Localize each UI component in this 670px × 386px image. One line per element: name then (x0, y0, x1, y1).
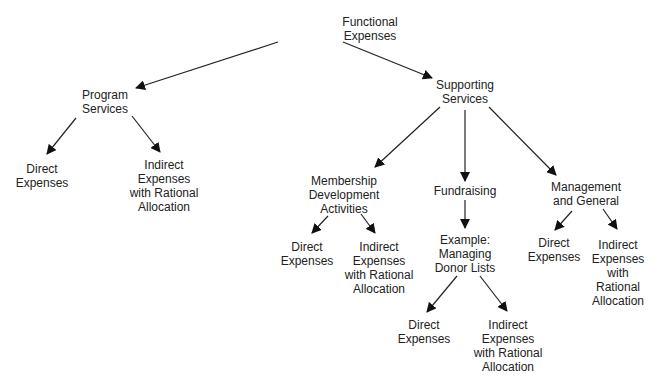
arrow-management-to-mgmt_indirect (603, 209, 617, 229)
node-program: Program Services (82, 88, 128, 116)
arrow-program-to-prog_indirect (132, 116, 160, 152)
node-mgmt-direct: Direct Expenses (528, 236, 581, 264)
node-prog-direct: Direct Expenses (16, 162, 69, 190)
node-mgmt-indirect: Indirect Expenses with Rational Allocati… (592, 238, 645, 308)
arrow-supporting-to-management (489, 107, 556, 175)
node-ex-direct: Direct Expenses (398, 318, 451, 346)
node-example: Example: Managing Donor Lists (435, 233, 496, 275)
arrow-example-to-ex_direct (427, 276, 457, 312)
functional-expenses-tree-diagram: Functional ExpensesProgram ServicesSuppo… (0, 0, 670, 386)
arrow-program-to-prog_direct (47, 118, 76, 154)
node-mem-indirect: Indirect Expenses with Rational Allocati… (345, 240, 414, 296)
arrow-supporting-to-membership (375, 107, 440, 167)
node-membership: Membership Development Activities (309, 174, 380, 216)
node-prog-indirect: Indirect Expenses with Rational Allocati… (130, 158, 199, 214)
arrow-membership-to-mem_indirect (361, 214, 375, 233)
arrow-example-to-ex_indirect (480, 276, 507, 311)
arrow-root-to-supporting (343, 42, 432, 78)
arrow-membership-to-mem_direct (312, 216, 328, 233)
node-supporting: Supporting Services (436, 78, 494, 106)
node-ex-indirect: Indirect Expenses with Rational Allocati… (474, 318, 543, 374)
node-mem-direct: Direct Expenses (281, 240, 334, 268)
node-root: Functional Expenses (342, 15, 397, 43)
node-fundraising: Fundraising (434, 184, 497, 198)
arrow-root-to-program (136, 42, 278, 88)
node-management: Management and General (551, 180, 621, 208)
arrow-management-to-mgmt_direct (555, 211, 572, 230)
